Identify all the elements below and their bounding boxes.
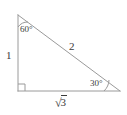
side-label-base: √3 [55, 97, 67, 109]
triangle-hypotenuse-line [18, 15, 120, 91]
radicand-value: 3 [61, 95, 68, 108]
radical-expression: √3 [55, 97, 67, 109]
angle-label-top: 60° [20, 25, 33, 34]
side-label-hypotenuse: 2 [69, 41, 75, 52]
right-angle-marker-icon [18, 84, 25, 91]
triangle-figure: 60° 30° 1 2 √3 [0, 0, 127, 115]
angle-label-bottom-right: 30° [90, 79, 103, 88]
side-label-vertical-leg: 1 [6, 50, 12, 61]
